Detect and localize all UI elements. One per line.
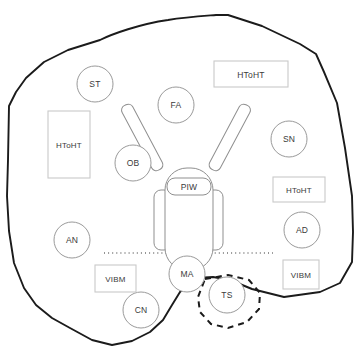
diagram-svg: PIW ST FA OB SN AN AD (0, 0, 361, 359)
ob-label: OB (127, 158, 140, 168)
box-node-vibm-left[interactable]: VIBM (95, 265, 136, 292)
cn-label: CN (135, 305, 148, 315)
htoht-top-label: HToHT (237, 70, 264, 80)
box-node-htoht-right[interactable]: HToHT (273, 177, 325, 202)
htoht-right-label: HToHT (286, 186, 312, 195)
vibm-right-label: VIBM (291, 271, 311, 280)
circle-node-fa[interactable]: FA (158, 87, 194, 123)
robot-label-piw: PIW (181, 182, 198, 192)
ad-label: AD (296, 225, 308, 235)
box-node-htoht-left[interactable]: HToHT (48, 111, 90, 178)
box-node-htoht-top[interactable]: HToHT (214, 61, 288, 87)
circle-node-ts[interactable]: TS (209, 277, 245, 313)
ts-label: TS (221, 290, 232, 300)
sn-label: SN (283, 134, 295, 144)
circle-node-ob[interactable]: OB (115, 145, 151, 181)
ma-label: MA (180, 269, 193, 279)
vibm-left-label: VIBM (105, 275, 125, 284)
diagram-canvas: PIW ST FA OB SN AN AD (0, 0, 361, 359)
circle-node-st[interactable]: ST (77, 66, 113, 102)
circle-node-cn[interactable]: CN (123, 292, 159, 328)
circle-node-ma[interactable]: MA (169, 256, 205, 292)
circle-node-ad[interactable]: AD (284, 212, 320, 248)
box-node-vibm-right[interactable]: VIBM (283, 260, 319, 289)
an-label: AN (66, 235, 78, 245)
st-label: ST (89, 79, 100, 89)
circle-node-sn[interactable]: SN (271, 121, 307, 157)
htoht-left-label: HToHT (56, 141, 82, 150)
circle-node-an[interactable]: AN (54, 222, 90, 258)
fa-label: FA (171, 100, 182, 110)
